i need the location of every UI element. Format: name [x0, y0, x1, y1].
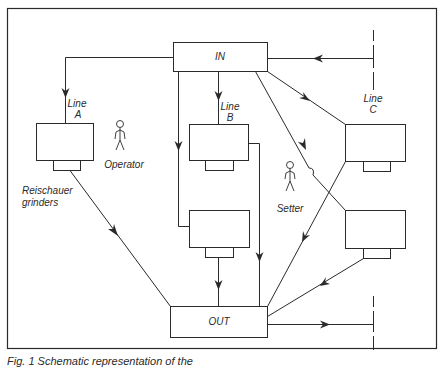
line-a-label-letter: A	[74, 109, 82, 120]
arrow-c-lower-out	[320, 277, 330, 286]
line-c-label-letter: C	[369, 104, 377, 115]
flow-in-to-line-a	[66, 58, 174, 124]
in-label: IN	[215, 51, 226, 62]
out-label: OUT	[208, 316, 230, 327]
operator-figure-icon	[115, 121, 125, 151]
in-node: IN	[174, 43, 268, 72]
flow-line-c-lower-to-out	[268, 259, 364, 317]
line-b-grinder-lower	[190, 211, 250, 258]
grinders-label-2: grinders	[22, 197, 58, 208]
line-b-label-word: Line	[221, 101, 240, 112]
flow-line-a-to-out	[70, 171, 171, 307]
setter-figure-icon	[285, 162, 295, 192]
line-b-grinder-upper	[190, 125, 249, 171]
flow-in-to-line-b-lower	[179, 72, 190, 227]
setter-label: Setter	[277, 203, 304, 214]
line-b-label-letter: B	[227, 112, 234, 123]
flow-in-to-line-c-lower	[256, 72, 346, 211]
line-a-label-word: Line	[68, 98, 87, 109]
line-a-grinder	[37, 124, 94, 171]
grinders-label-1: Reischauer	[22, 185, 73, 196]
arrow-c-lower	[298, 138, 306, 150]
arrow-c-upper	[299, 92, 310, 101]
flow-line-c-upper-to-out	[268, 162, 346, 307]
operator-label: Operator	[104, 159, 144, 170]
out-node: OUT	[171, 307, 268, 338]
figure-caption: Fig. 1 Schematic representation of the	[7, 355, 193, 367]
line-c-grinder-upper	[346, 125, 406, 172]
arrow-a-out	[108, 224, 118, 236]
arrow-c-upper-out	[302, 231, 310, 242]
line-c-grinder-lower	[346, 211, 406, 259]
line-c-label-word: Line	[364, 93, 383, 104]
flow-line-b-upper-to-out	[249, 144, 260, 307]
